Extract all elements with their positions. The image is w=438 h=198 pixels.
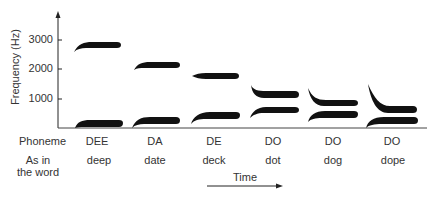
formant-da-f2 [134,62,180,70]
formant-dee-f2 [74,42,121,52]
phoneme-label-dee: DEE [86,135,109,147]
word-label-dog: dog [324,154,342,166]
word-row-label-line2: the word [17,166,59,178]
formant-dope-f1 [366,117,418,128]
time-arrow-head-icon [276,184,283,189]
formant-dog-f1 [308,111,358,122]
word-label-deep: deep [87,154,111,166]
phoneme-label-de: DE [206,135,221,147]
word-label-date: date [144,154,165,166]
formant-da-f1 [132,117,180,128]
formant-dee-f1 [75,120,123,128]
formant-bars [74,42,418,128]
word-label-deck: deck [202,154,225,166]
tick-label-1000: 1000 [13,92,53,104]
formant-diagram [0,0,438,198]
phoneme-label-da: DA [147,135,162,147]
y-axis-arrow-icon [56,11,61,18]
word-label-dot: dot [265,154,280,166]
time-label: Time [233,171,257,183]
formant-dog-f2 [308,88,358,106]
phoneme-row-label: Phoneme [19,135,66,147]
phoneme-label-do-dog: DO [325,135,342,147]
word-label-dope: dope [381,154,405,166]
formant-de-f1 [191,112,240,124]
tick-label-3000: 3000 [13,33,53,45]
formant-de-f2 [192,73,239,79]
formant-dot-f2 [251,85,299,98]
formant-dot-f1 [250,107,299,118]
formant-dope-f2 [368,84,417,113]
tick-label-2000: 2000 [13,62,53,74]
phoneme-label-do-dot: DO [265,135,282,147]
word-row-label-line1: As in [26,154,50,166]
phoneme-label-do-dope: DO [384,135,401,147]
